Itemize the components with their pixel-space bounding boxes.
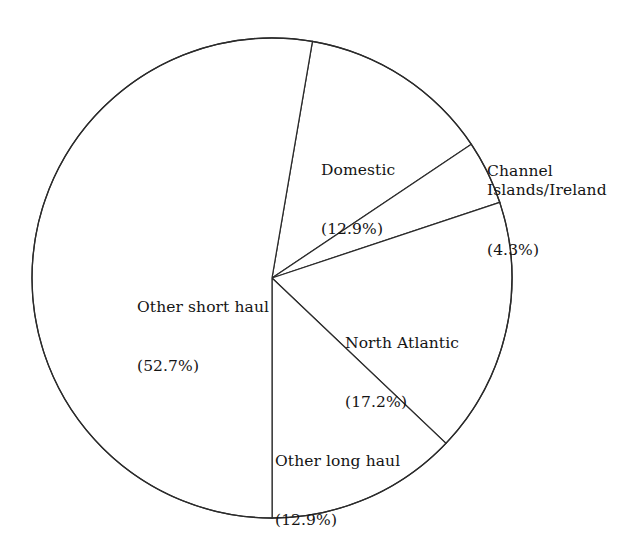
slice-label-other-long-haul-name: Other long haul bbox=[275, 452, 400, 472]
slice-label-other-short-haul-name: Other short haul bbox=[137, 298, 269, 318]
slice-label-other-short-haul-percent: (52.7%) bbox=[137, 357, 269, 377]
slice-label-other-long-haul: Other long haul (12.9%) bbox=[275, 412, 400, 544]
slice-label-domestic: Domestic (12.9%) bbox=[321, 121, 395, 280]
slice-label-channel-islands-ireland: Channel Islands/Ireland (4.3%) bbox=[487, 122, 607, 300]
slice-label-other-long-haul-percent: (12.9%) bbox=[275, 511, 400, 531]
pie-chart: Domestic (12.9%) Channel Islands/Ireland… bbox=[0, 0, 620, 544]
slice-label-north-atlantic-name: North Atlantic bbox=[345, 334, 459, 354]
slice-label-channel-islands-ireland-percent: (4.3%) bbox=[487, 241, 607, 261]
slice-label-channel-islands-ireland-name: Channel Islands/Ireland bbox=[487, 162, 607, 202]
slice-label-north-atlantic-percent: (17.2%) bbox=[345, 393, 459, 413]
slice-label-other-short-haul: Other short haul (52.7%) bbox=[137, 258, 269, 417]
slice-label-domestic-name: Domestic bbox=[321, 161, 395, 181]
slice-label-domestic-percent: (12.9%) bbox=[321, 220, 395, 240]
